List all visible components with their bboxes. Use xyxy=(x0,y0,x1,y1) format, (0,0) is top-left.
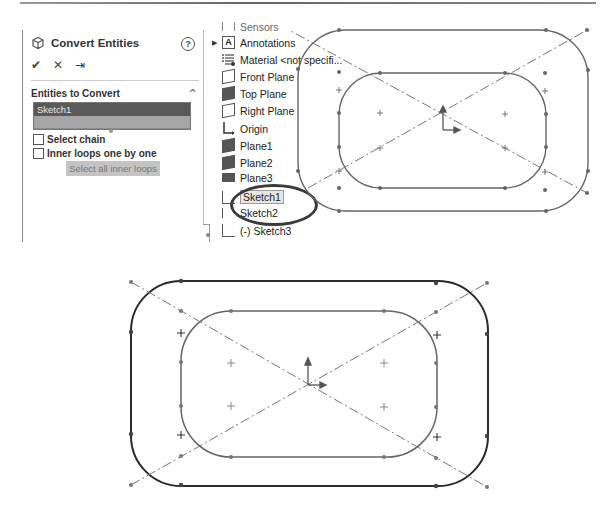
list-item[interactable]: Sketch1 xyxy=(34,103,190,116)
tree-item-label: Origin xyxy=(240,123,268,135)
sensors-icon xyxy=(222,22,235,31)
tree-item-label: Plane1 xyxy=(240,140,273,152)
plane-icon xyxy=(222,138,235,153)
plane-icon xyxy=(222,155,235,170)
select-all-inner-loops-button[interactable]: Select all inner loops xyxy=(66,161,160,176)
pm-header: Convert Entities xyxy=(31,36,139,50)
section-title: Entities to Convert xyxy=(31,88,120,99)
plane-icon xyxy=(222,86,235,101)
list-empty-area[interactable] xyxy=(34,116,190,128)
graphics-area-sketch[interactable] xyxy=(290,20,600,220)
tree-item-label: Plane2 xyxy=(240,157,273,169)
tree-item-sensors[interactable]: Sensors xyxy=(222,22,279,31)
tree-item-plane2[interactable]: Plane2 xyxy=(222,156,273,169)
chevron-up-icon[interactable]: ^ xyxy=(189,88,197,99)
tree-item-label: Annotations xyxy=(240,37,295,49)
pm-actions: ✔ ✕ ⇥ xyxy=(31,58,85,72)
pushpin-icon[interactable]: ⇥ xyxy=(75,58,85,72)
property-manager-panel: Convert Entities ? ✔ ✕ ⇥ Entities to Con… xyxy=(22,30,203,242)
inner-slot-sketch1 xyxy=(339,73,546,188)
tree-item-sketch3[interactable]: (-) Sketch3 xyxy=(222,224,291,237)
plane-icon xyxy=(222,173,235,182)
tree-item-plane1[interactable]: Plane1 xyxy=(222,139,273,152)
tree-item-label: Top Plane xyxy=(240,88,287,100)
tree-item-label: Front Plane xyxy=(240,71,294,83)
annotations-icon: A xyxy=(222,36,235,49)
panel-border xyxy=(203,30,204,224)
panel-resize-handle[interactable] xyxy=(206,233,210,237)
tree-item-label: Right Plane xyxy=(240,105,294,117)
tree-item-origin[interactable]: Origin xyxy=(222,122,268,135)
expand-arrow-icon[interactable]: ▶ xyxy=(212,39,217,47)
sketch-icon xyxy=(222,224,235,237)
tree-item-top-plane[interactable]: Top Plane xyxy=(222,87,287,100)
origin-icon xyxy=(305,358,326,388)
tree-item-annotations[interactable]: ▶ A Annotations xyxy=(222,36,295,49)
listbox-resize-handle[interactable] xyxy=(109,129,113,133)
converted-sketch-figure xyxy=(110,265,510,495)
select-chain-checkbox[interactable] xyxy=(33,134,44,145)
select-chain-option[interactable]: Select chain xyxy=(33,134,105,145)
checkbox-label: Inner loops one by one xyxy=(47,148,156,159)
pm-title: Convert Entities xyxy=(51,37,139,49)
inner-loops-option[interactable]: Inner loops one by one xyxy=(33,148,156,159)
divider xyxy=(31,80,199,81)
entities-listbox[interactable]: Sketch1 xyxy=(33,102,191,130)
help-icon[interactable]: ? xyxy=(181,37,195,51)
convert-entities-icon xyxy=(31,36,45,50)
section-header-entities[interactable]: Entities to Convert ^ xyxy=(31,88,197,99)
plane-icon xyxy=(222,103,235,118)
inner-loops-checkbox[interactable] xyxy=(33,148,44,159)
tree-item-label: Plane3 xyxy=(240,173,273,182)
material-icon xyxy=(222,53,235,66)
checkbox-label: Select chain xyxy=(47,134,105,145)
page-rule xyxy=(20,2,596,4)
tree-item-label: (-) Sketch3 xyxy=(240,225,291,237)
cancel-x-icon[interactable]: ✕ xyxy=(53,58,63,72)
tree-item-front-plane[interactable]: Front Plane xyxy=(222,70,294,83)
plane-icon xyxy=(222,69,235,84)
tree-item-right-plane[interactable]: Right Plane xyxy=(222,104,294,117)
origin-icon xyxy=(222,122,235,135)
ok-check-icon[interactable]: ✔ xyxy=(31,58,41,72)
tree-item-plane3[interactable]: Plane3 xyxy=(222,173,273,182)
tree-item-label: Sensors xyxy=(240,22,279,31)
construction-line xyxy=(290,25,587,193)
origin-icon xyxy=(440,106,460,133)
